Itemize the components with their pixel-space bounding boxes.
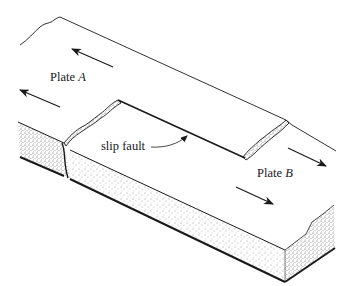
- label-slip-fault: slip fault: [101, 139, 145, 154]
- slip-fault-leader: [151, 136, 187, 147]
- fault-diagram: [0, 0, 356, 286]
- fault-crack-right: [243, 120, 289, 160]
- plate-a-front-face: [18, 122, 70, 178]
- label-plate-b: Plate B: [257, 166, 293, 181]
- arrow-plate-a-lower: [20, 90, 60, 107]
- plate-a-letter: A: [78, 70, 86, 84]
- plate-b-letter: B: [285, 166, 293, 180]
- plate-a-outline: [20, 17, 286, 158]
- arrow-plate-b-upper: [288, 148, 326, 166]
- plate-a-prefix: Plate: [50, 70, 78, 84]
- plate-b-front-face: [70, 150, 335, 282]
- plate-b-back-edge: [292, 125, 336, 151]
- plate-b-prefix: Plate: [257, 166, 285, 180]
- label-plate-a: Plate A: [50, 70, 86, 85]
- arrow-plate-b-lower: [236, 187, 273, 204]
- arrow-plate-a-upper: [72, 49, 113, 67]
